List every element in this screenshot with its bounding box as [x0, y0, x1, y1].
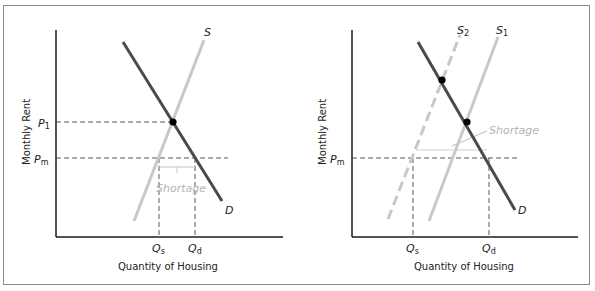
demand-label: D	[518, 204, 526, 217]
pm-label: Pm	[330, 153, 345, 167]
supply-2-label: S2	[457, 24, 469, 38]
left-panel: Shortage S D P1 Pm Qs Qd Quantity of Hou…	[21, 26, 283, 272]
demand-label: D	[225, 204, 233, 217]
supply-1-label: S1	[496, 24, 508, 38]
new-equilibrium-point	[438, 76, 445, 83]
initial-equilibrium-point	[463, 118, 470, 125]
qs-label: Qs	[152, 242, 165, 256]
qd-label: Qd	[482, 242, 496, 256]
right-panel: Shortage S2 S1 D Pm Qs Qd Quantity of Ho…	[317, 24, 578, 272]
pm-label: Pm	[34, 153, 49, 167]
equilibrium-point	[169, 118, 176, 125]
y-axis-label: Monthly Rent	[317, 99, 328, 165]
supply-curve-1	[429, 37, 498, 221]
qs-label: Qs	[406, 242, 419, 256]
shortage-label: Shortage	[156, 182, 206, 195]
y-axis-label: Monthly Rent	[21, 99, 32, 165]
rent-control-diagram: Shortage S D P1 Pm Qs Qd Quantity of Hou…	[0, 0, 595, 291]
shortage-label: Shortage	[489, 124, 539, 137]
qd-label: Qd	[188, 242, 202, 256]
supply-label: S	[204, 26, 211, 39]
x-axis-label: Quantity of Housing	[118, 261, 218, 272]
x-axis-label: Quantity of Housing	[414, 261, 514, 272]
p1-label: P1	[38, 117, 50, 131]
supply-curve-2	[388, 35, 460, 219]
shortage-bracket	[159, 165, 195, 173]
